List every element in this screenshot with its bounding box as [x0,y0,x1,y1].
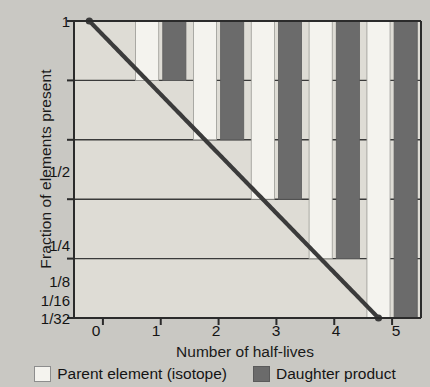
x-tick-label: 0 [81,322,111,340]
x-tick-label: 1 [141,322,171,340]
parent-bar [309,21,332,259]
parent-bar [367,21,390,318]
x-tick-label: 2 [201,322,231,340]
legend-item-daughter: Daughter product [253,365,396,383]
x-tick-label: 3 [261,322,291,340]
daughter-bar [221,21,244,140]
legend-label-daughter: Daughter product [276,365,396,383]
daughter-bar [394,21,417,318]
legend-item-parent: Parent element (isotope) [34,365,227,383]
daughter-bar [163,21,186,80]
chart-legend: Parent element (isotope) Daughter produc… [0,361,430,387]
daughter-bar [278,21,301,199]
decay-chart-figure: 1 1/2 1/4 1/8 1/16 1/32 0 1 2 3 4 5 Frac… [0,0,430,387]
x-tick-label: 5 [381,322,411,340]
x-axis-title: Number of half-lives [60,343,430,361]
legend-swatch-parent-icon [34,366,51,382]
legend-label-parent: Parent element (isotope) [57,365,227,383]
legend-swatch-daughter-icon [253,366,270,382]
y-axis-title: Fraction of elements present [37,19,55,319]
parent-bar [251,21,274,199]
daughter-bar [336,21,359,259]
x-tick-label: 4 [321,322,351,340]
parent-bar [193,21,216,140]
